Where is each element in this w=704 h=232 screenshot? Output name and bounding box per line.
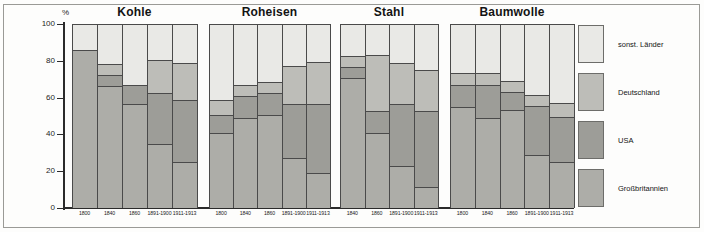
x-axis-tick-label: 1891-1900 [524, 210, 549, 216]
x-axis-tick-label: 1860 [257, 210, 281, 216]
bar-segment [98, 87, 122, 208]
legend-item[interactable]: sonst. Länder [578, 24, 696, 64]
bar-segment [283, 105, 306, 160]
bar-segment [234, 25, 257, 86]
bar-segment [390, 64, 414, 104]
bar-segment [341, 68, 365, 79]
legend-label: Großbritannien [618, 184, 668, 193]
x-axis-tick-label: 1911-1913 [306, 210, 330, 216]
x-axis-tick-label: 1860 [365, 210, 390, 216]
bar-segment [210, 134, 233, 208]
bar-segment [148, 61, 172, 94]
bar-segment [501, 93, 525, 111]
x-axis-tick-label: 1800 [209, 210, 233, 216]
bar-segment [550, 163, 574, 208]
stacked-bar[interactable] [414, 24, 440, 208]
bar-segment [258, 25, 281, 83]
stacked-bar[interactable] [524, 24, 550, 208]
bar-segment [451, 74, 475, 86]
legend-swatch-other [578, 25, 604, 63]
legend-item[interactable]: Großbritannien [578, 168, 696, 208]
y-axis-tick [57, 134, 64, 135]
bar-segment [525, 25, 549, 96]
plot-area: % 020406080100 Kohle1800184018601891-190… [0, 0, 704, 232]
stacked-bar[interactable] [122, 24, 148, 208]
bar-segment [173, 163, 197, 208]
y-axis-tick [57, 98, 64, 99]
stacked-bar[interactable] [365, 24, 391, 208]
bar-group [340, 24, 438, 208]
bar-segment [98, 25, 122, 65]
legend-swatch-usa [578, 121, 604, 159]
bar-segment [451, 86, 475, 108]
stacked-bar[interactable] [500, 24, 526, 208]
stacked-bar[interactable] [172, 24, 198, 208]
bar-segment [234, 86, 257, 97]
y-axis-label-wrap: 60 [25, 94, 55, 102]
bar-segment [366, 25, 390, 56]
chart-panel: Stahl184018601891-19001911-1913 [340, 24, 438, 208]
legend: sonst. LänderDeutschlandUSAGroßbritannie… [578, 22, 696, 208]
bar-segment [390, 25, 414, 64]
bar-segment [148, 145, 172, 208]
stacked-bar[interactable] [340, 24, 366, 208]
stacked-bar[interactable] [233, 24, 258, 208]
x-axis-tick-label: 1860 [500, 210, 525, 216]
bar-segment [341, 79, 365, 208]
panel-title: Baumwolle [450, 5, 574, 19]
stacked-bar[interactable] [147, 24, 173, 208]
y-axis-unit: % [62, 8, 69, 17]
chart-panel: Baumwolle1800184018601891-19001911-1913 [450, 24, 574, 208]
bar-segment [148, 25, 172, 61]
legend-item[interactable]: Deutschland [578, 72, 696, 112]
stacked-bar[interactable] [450, 24, 476, 208]
y-axis-label-wrap: 100 [25, 20, 55, 28]
bar-segment [366, 134, 390, 208]
bar-segment [258, 116, 281, 208]
bar-segment [476, 119, 500, 208]
legend-swatch-de [578, 73, 604, 111]
bar-segment [501, 25, 525, 82]
stacked-bar[interactable] [72, 24, 98, 208]
bar-segment [415, 25, 439, 71]
bar-segment [210, 101, 233, 116]
bar-segment [258, 94, 281, 116]
bar-segment [307, 174, 330, 208]
chart-panel: Roheisen1800184018601891-19001911-1913 [209, 24, 330, 208]
y-axis-tick [57, 208, 64, 209]
bar-segment [283, 67, 306, 105]
stacked-bar[interactable] [475, 24, 501, 208]
bar-segment [415, 112, 439, 188]
bar-segment [415, 188, 439, 208]
y-axis-label-wrap: 0 [25, 204, 55, 212]
bar-segment [341, 25, 365, 57]
stacked-bar[interactable] [282, 24, 307, 208]
stacked-bar[interactable] [549, 24, 575, 208]
bar-segment [123, 105, 147, 208]
legend-item[interactable]: USA [578, 120, 696, 160]
bar-segment [283, 25, 306, 67]
stacked-bar[interactable] [306, 24, 331, 208]
bar-segment [210, 25, 233, 101]
bar-segment [307, 25, 330, 63]
x-axis-labels: 184018601891-19001911-1913 [340, 210, 438, 216]
bar-segment [258, 83, 281, 94]
bar-segment [98, 76, 122, 87]
bar-segment [234, 119, 257, 208]
x-axis-tick-label: 1840 [97, 210, 122, 216]
stacked-bar[interactable] [209, 24, 234, 208]
bar-segment [366, 112, 390, 134]
x-axis-tick-label: 1840 [340, 210, 365, 216]
bar-segment [173, 101, 197, 163]
stacked-bar[interactable] [257, 24, 282, 208]
legend-label: Deutschland [618, 88, 660, 97]
bar-segment [550, 25, 574, 104]
stacked-bar[interactable] [97, 24, 123, 208]
y-axis-label-wrap: 20 [25, 167, 55, 175]
y-axis-tick-label: 80 [31, 57, 55, 65]
chart-panel: Kohle1800184018601891-19001911-1913 [72, 24, 197, 208]
bar-segment [525, 107, 549, 155]
y-axis-tick-label: 20 [31, 167, 55, 175]
bar-segment [451, 108, 475, 208]
stacked-bar[interactable] [389, 24, 415, 208]
